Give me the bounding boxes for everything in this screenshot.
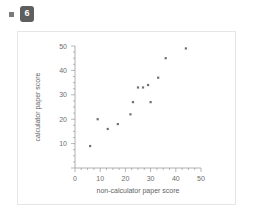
scatter-plot-svg: 01020304050 1020304050 non-calculator pa… [18, 32, 235, 204]
y-axis-title: calculator paper score [34, 72, 42, 141]
data-point [89, 145, 91, 147]
data-point [150, 101, 152, 103]
x-tick-label: 30 [147, 175, 155, 182]
x-tick-label: 50 [197, 175, 205, 182]
data-point [129, 113, 131, 115]
x-tick-label: 10 [96, 175, 104, 182]
data-point [147, 84, 149, 86]
y-tick-label: 30 [59, 91, 67, 98]
x-axis-title: non-calculator paper score [97, 187, 180, 195]
y-tick-label: 40 [59, 67, 67, 74]
data-point [132, 101, 134, 103]
x-tick-label: 0 [73, 175, 77, 182]
chart-card: 01020304050 1020304050 non-calculator pa… [17, 31, 236, 205]
scatter-plot-figure: 01020304050 1020304050 non-calculator pa… [18, 32, 235, 204]
x-axis-ticks: 01020304050 [73, 168, 205, 182]
data-points-layer [89, 47, 187, 147]
y-axis-ticks: 1020304050 [59, 43, 75, 168]
question-header: 6 [0, 0, 34, 28]
data-point [97, 118, 99, 120]
question-number-badge: 6 [20, 6, 34, 22]
y-tick-label: 50 [59, 43, 67, 50]
data-point [185, 47, 187, 49]
x-tick-label: 40 [172, 175, 180, 182]
data-point [107, 128, 109, 130]
data-point [117, 123, 119, 125]
square-bullet-icon [9, 12, 14, 17]
data-point [157, 77, 159, 79]
x-tick-label: 20 [122, 175, 130, 182]
data-point [165, 57, 167, 59]
data-point [142, 86, 144, 88]
data-point [137, 86, 139, 88]
y-tick-label: 20 [59, 116, 67, 123]
y-tick-label: 10 [59, 140, 67, 147]
